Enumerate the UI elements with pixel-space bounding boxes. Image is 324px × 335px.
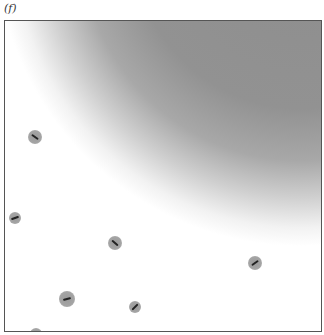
direction-arrow-icon: [63, 297, 71, 301]
particle-marker: [248, 256, 262, 270]
direction-arrow-icon: [131, 303, 138, 310]
direction-arrow-icon: [31, 134, 39, 140]
particle-marker: [129, 301, 141, 313]
particle-marker: [9, 212, 21, 224]
particle-marker: [28, 130, 42, 144]
panel-label: (f): [4, 2, 17, 15]
direction-arrow-icon: [251, 260, 259, 266]
shaded-gradient-region: [5, 21, 321, 331]
direction-arrow-icon: [11, 216, 19, 221]
particle-marker: [108, 236, 122, 250]
particle-marker: [59, 291, 75, 307]
direction-arrow-icon: [111, 240, 118, 247]
plot-frame: [4, 20, 322, 332]
